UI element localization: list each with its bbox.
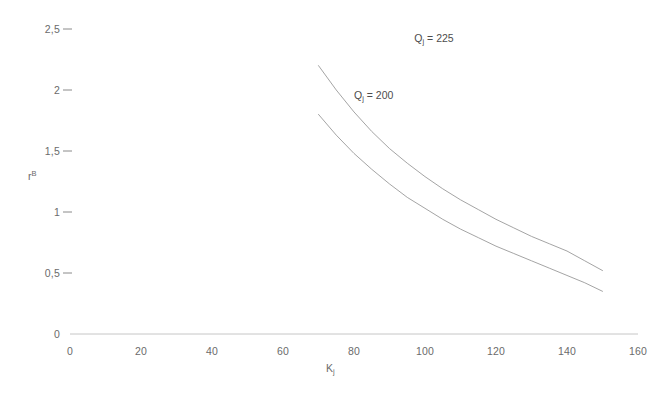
x-axis-title-text: Kj xyxy=(326,362,335,374)
x-tick-label: 20 xyxy=(135,345,147,357)
chart-curve xyxy=(319,114,603,291)
curve-label: Qj = 225 xyxy=(414,32,453,44)
x-tick-label: 160 xyxy=(629,345,647,357)
y-tick-label: 1,5 xyxy=(20,145,60,157)
y-axis-title: rB xyxy=(28,170,37,182)
curve-label-symbol: Qj = 225 xyxy=(414,32,453,44)
x-tick-label: 140 xyxy=(558,345,576,357)
y-tick-label: 1 xyxy=(20,206,60,218)
chart-figure: 00,511,522,5 020406080100120140160 Qj = … xyxy=(0,0,663,406)
curve-label: Qj = 200 xyxy=(354,89,393,101)
y-tick-label: 2 xyxy=(20,84,60,96)
x-tick-label: 40 xyxy=(206,345,218,357)
axis-tick-marks xyxy=(63,29,72,273)
curve-label-symbol: Qj = 200 xyxy=(354,89,393,101)
y-tick-label: 0,5 xyxy=(20,267,60,279)
x-tick-label: 120 xyxy=(487,345,505,357)
y-axis-title-text: rB xyxy=(28,170,37,182)
x-tick-label: 0 xyxy=(67,345,73,357)
y-tick-label: 0 xyxy=(20,328,60,340)
x-tick-label: 80 xyxy=(348,345,360,357)
x-tick-label: 60 xyxy=(277,345,289,357)
x-axis-title: Kj xyxy=(326,362,335,374)
x-tick-label: 100 xyxy=(416,345,434,357)
y-tick-label: 2,5 xyxy=(20,23,60,35)
